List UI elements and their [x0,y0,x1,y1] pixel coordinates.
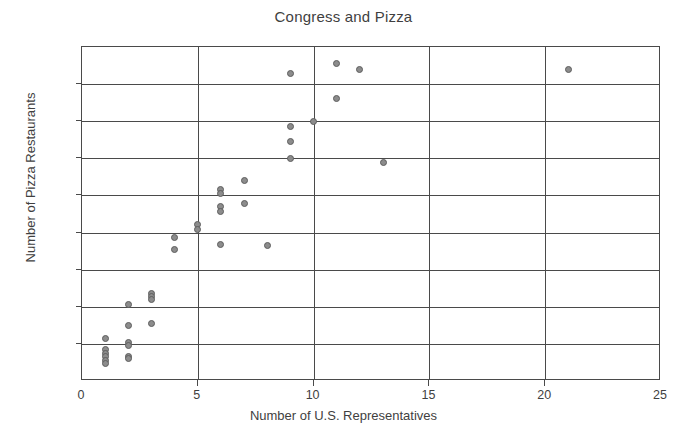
data-point [565,66,572,73]
data-point [380,159,387,166]
y-tick-mark-1200 [76,157,81,158]
data-point [125,322,132,329]
y-tick-mark-1400 [76,120,81,121]
x-tick-label-15: 15 [408,388,448,402]
data-point [310,118,317,125]
data-point [102,335,109,342]
gridline-x-5 [198,47,199,379]
x-axis: 0510152025 [81,380,660,406]
x-tick-label-20: 20 [524,388,564,402]
x-tick-mark-15 [428,380,429,386]
data-point [287,123,294,130]
scatter-chart-figure: Congress and Pizza Number of Pizza Resta… [0,0,687,437]
x-axis-title: Number of U.S. Representatives [0,408,687,423]
data-point [356,66,363,73]
gridline-y-600 [82,270,659,271]
y-tick-mark-1600 [76,83,81,84]
data-point [287,138,294,145]
gridline-x-15 [429,47,430,379]
chart-title: Congress and Pizza [0,8,687,25]
y-tick-mark-800 [76,232,81,233]
data-point [102,360,109,367]
y-tick-mark-400 [76,306,81,307]
data-point [333,60,340,67]
data-point [148,296,155,303]
data-point [148,320,155,327]
gridline-y-1200 [82,158,659,159]
x-tick-mark-20 [544,380,545,386]
y-tick-mark-200 [76,343,81,344]
data-point [333,95,340,102]
gridline-y-1000 [82,195,659,196]
y-tick-mark-600 [76,269,81,270]
data-point [241,200,248,207]
data-point [287,70,294,77]
x-tick-label-25: 25 [640,388,680,402]
gridline-y-1400 [82,121,659,122]
data-point [171,234,178,241]
data-point [125,342,132,349]
data-point [287,155,294,162]
x-tick-label-10: 10 [293,388,333,402]
plot-area [81,46,660,380]
data-point [125,355,132,362]
gridline-x-10 [314,47,315,379]
gridline-y-200 [82,344,659,345]
data-point [217,241,224,248]
gridline-y-400 [82,307,659,308]
y-tick-mark-1000 [76,194,81,195]
x-tick-mark-10 [313,380,314,386]
y-axis-title: Number of Pizza Restaurants [23,18,38,338]
gridline-x-20 [545,47,546,379]
gridline-y-1600 [82,84,659,85]
x-tick-mark-5 [197,380,198,386]
gridline-y-800 [82,233,659,234]
data-point [241,177,248,184]
x-tick-label-0: 0 [61,388,101,402]
data-point [171,246,178,253]
data-point [217,208,224,215]
x-tick-label-5: 5 [177,388,217,402]
data-point [264,242,271,249]
